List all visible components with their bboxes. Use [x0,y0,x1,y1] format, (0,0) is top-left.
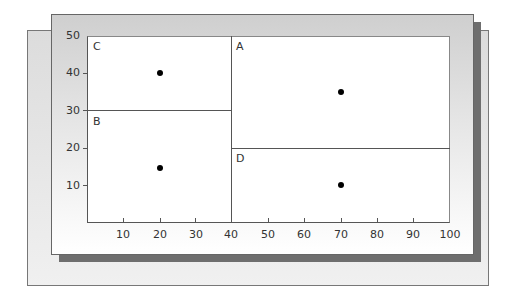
x-tick [341,218,342,223]
x-tick-label: 30 [181,228,211,241]
divider-y20-right [231,148,450,149]
y-tick [83,110,87,111]
x-tick [123,218,124,223]
y-tick-label: 50 [56,29,80,42]
y-tick-label: 30 [56,104,80,117]
data-point-c [157,70,163,76]
x-tick [413,218,414,223]
x-tick-label: 90 [398,228,428,241]
y-tick [83,73,87,74]
x-tick [268,218,269,223]
divider-x40 [231,36,232,223]
y-tick [83,148,87,149]
x-tick-label: 40 [216,228,246,241]
x-tick-label: 20 [145,228,175,241]
region-label-c: C [93,40,101,53]
y-tick-label: 40 [56,66,80,79]
data-point-b [157,165,163,171]
x-tick-label: 80 [362,228,392,241]
region-label-a: A [236,40,244,53]
data-point-a [338,89,344,95]
region-label-b: B [93,115,101,128]
x-tick [377,218,378,223]
plot-area [87,36,450,223]
x-tick [304,218,305,223]
x-tick-label: 60 [289,228,319,241]
y-tick-label: 20 [56,141,80,154]
region-label-d: D [236,152,244,165]
x-tick-label: 70 [326,228,356,241]
x-tick [160,218,161,223]
x-tick [195,218,196,223]
x-tick-label: 10 [108,228,138,241]
data-point-d [338,182,344,188]
y-tick [83,185,87,186]
x-tick-label: 50 [253,228,283,241]
divider-y30-left [87,110,232,111]
x-tick-label: 100 [435,228,465,241]
y-tick-label: 10 [56,179,80,192]
